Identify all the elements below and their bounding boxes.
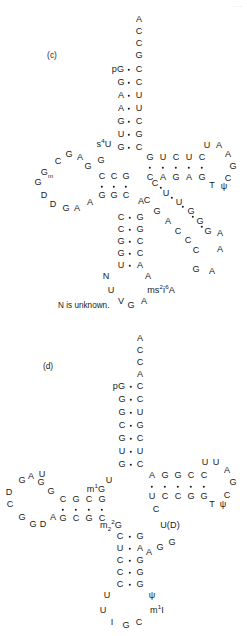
nucleotide-G: G — [72, 495, 79, 504]
nucleotide-psi: ψ — [149, 591, 156, 600]
base-pair-bond-dot — [130, 438, 132, 440]
nucleotide-C: C — [118, 213, 125, 222]
nucleotide-U: U — [136, 104, 143, 113]
nucleotide-G: G — [172, 173, 179, 182]
nucleotide-G: G — [204, 227, 211, 236]
nucleotide-s4U: s4U — [97, 140, 112, 149]
nucleotide-C: C — [137, 460, 144, 469]
nucleotide-G: G — [118, 434, 125, 443]
nucleotide-Gm: Gm — [41, 168, 53, 177]
nucleotide-G: G — [168, 538, 175, 547]
nucleotide-C: C — [137, 249, 144, 258]
nucleotide-C: C — [137, 395, 144, 404]
nucleotide-G: G — [146, 153, 153, 162]
base-pair-bond-dot — [88, 509, 90, 511]
nucleotide-C: C — [188, 471, 195, 480]
base-pair-bond-dot — [129, 229, 131, 231]
nucleotide-G: G — [229, 162, 236, 171]
nucleotide-U: U — [213, 458, 220, 467]
base-pair-bond-dot — [128, 147, 130, 149]
nucleotide-U: U — [39, 470, 46, 479]
nucleotide-U: U — [149, 492, 156, 501]
base-pair-bond-dot — [113, 186, 115, 188]
nucleotide-G: G — [161, 471, 168, 480]
nucleotide-C: C — [136, 65, 143, 74]
nucleotide-C: C — [173, 153, 180, 162]
nucleotide-G: G — [98, 495, 105, 504]
nucleotide-U: U — [204, 141, 211, 150]
nucleotide-psi: ψ — [221, 182, 228, 191]
nucleotide-A: A — [149, 471, 155, 480]
nucleotide-C: C — [137, 237, 144, 246]
nucleotide-G: G — [187, 492, 194, 501]
nucleotide-A: A — [118, 104, 124, 113]
nucleotide-G: G — [135, 51, 142, 60]
nucleotide-A: A — [146, 548, 152, 557]
nucleotide-G: G — [136, 568, 143, 577]
nucleotide-G: G — [29, 520, 36, 529]
nucleotide-U: U — [104, 591, 111, 600]
nucleotide-G: G — [136, 580, 143, 589]
base-pair-bond-dot — [162, 167, 164, 169]
base-pair-bond-dot — [130, 399, 132, 401]
nucleotide-m1I: m1I — [150, 606, 164, 615]
nucleotide-C: C — [119, 421, 126, 430]
nucleotide-A: A — [160, 173, 166, 182]
nucleotide-C: C — [152, 179, 159, 188]
base-pair-bond-dot — [130, 464, 132, 466]
nucleotide-A: A — [137, 334, 143, 343]
nucleotide-U: U — [100, 606, 107, 615]
nucleotide-C: C — [137, 382, 144, 391]
nucleotide-G: G — [59, 514, 66, 523]
nucleotide-C: C — [117, 556, 124, 565]
nucleotide-G: G — [65, 150, 72, 159]
base-pair-bond-dot — [130, 451, 132, 453]
panel-label-c: (c) — [47, 51, 57, 59]
nucleotide-C: C — [136, 143, 143, 152]
base-pair-bond-dot — [129, 572, 131, 574]
nucleotide-C: C — [144, 196, 151, 205]
nucleotide-V: V — [118, 297, 124, 306]
nucleotide-C: C — [137, 346, 144, 355]
nucleotide-G: G — [174, 471, 181, 480]
nucleotide-G: G — [122, 172, 129, 181]
panel-note-c: N is unknown. — [58, 302, 109, 310]
nucleotide-A: A — [137, 544, 143, 553]
nucleotide-G: G — [198, 173, 205, 182]
nucleotide-T: T — [209, 181, 215, 190]
nucleotide-A: A — [225, 150, 231, 159]
nucleotide-U: U — [137, 408, 144, 417]
nucleotide-C: C — [175, 227, 182, 236]
nucleotide-C: C — [136, 618, 143, 627]
panel-d-stage: (d)ACCApGCGCGUCGGCUUGCUAGGCCUUAGCUCCGGTψ… — [0, 320, 247, 636]
base-pair-bond-dot — [203, 486, 205, 488]
nucleotide-U: U — [136, 91, 143, 100]
nucleotide-pG: pG — [113, 382, 125, 391]
nucleotide-G: G — [136, 225, 143, 234]
nucleotide-G: G — [127, 301, 134, 310]
base-pair-bond-dot — [201, 167, 203, 169]
nucleotide-C: C — [73, 514, 80, 523]
nucleotide-G: G — [118, 460, 125, 469]
nucleotide-A: A — [217, 229, 223, 238]
nucleotide-C: C — [136, 78, 143, 87]
nucleotide-I: I — [111, 618, 114, 627]
base-pair-bond-dot — [128, 95, 130, 97]
nucleotide-A: A — [145, 272, 151, 281]
nucleotide-C: C — [175, 492, 182, 501]
nucleotide-A: A — [87, 198, 93, 207]
panel-c-trna-diagram: (c)ACCGpGCGCAUAUGCUGGCs4UGGUCUCUAAGCCAGA… — [0, 0, 247, 320]
nucleotide-A: A — [28, 472, 34, 481]
nucleotide-G: G — [136, 556, 143, 565]
nucleotide-G: G — [117, 117, 124, 126]
nucleotide-A: A — [77, 153, 83, 162]
nucleotide-G: G — [117, 237, 124, 246]
nucleotide-G: G — [110, 191, 117, 200]
base-pair-bond-dot — [151, 486, 153, 488]
nucleotide-A: A — [186, 173, 192, 182]
nucleotide-G: G — [98, 191, 105, 200]
nucleotide-D: D — [41, 191, 48, 200]
nucleotide-G: G — [18, 513, 25, 522]
nucleotide-G: G — [84, 162, 91, 171]
nucleotide-U: U — [186, 153, 193, 162]
